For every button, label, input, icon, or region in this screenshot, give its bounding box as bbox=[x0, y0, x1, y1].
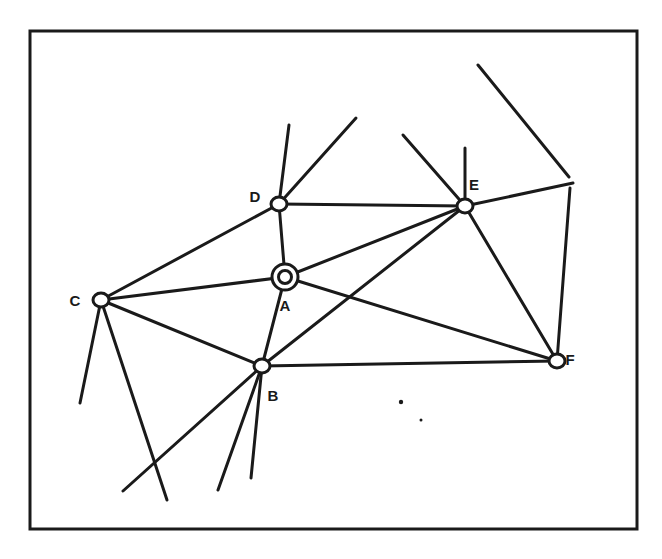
edge-d-c bbox=[101, 204, 279, 300]
node-label: A bbox=[280, 297, 291, 314]
node-circle-icon bbox=[271, 197, 287, 211]
ray-line bbox=[80, 300, 101, 403]
edges-layer bbox=[101, 204, 557, 366]
ray-line bbox=[403, 135, 465, 206]
node-c: C bbox=[70, 292, 109, 309]
node-label: F bbox=[565, 351, 574, 368]
node-label: E bbox=[469, 176, 479, 193]
edge-c-b bbox=[101, 300, 262, 366]
network-diagram: ABCDEF bbox=[0, 0, 662, 559]
ray-line bbox=[279, 125, 289, 204]
edge-b-f bbox=[262, 361, 557, 366]
edge-a-e bbox=[285, 206, 465, 277]
ray-line bbox=[279, 118, 356, 204]
node-label: D bbox=[250, 188, 261, 205]
node-circle-icon bbox=[549, 354, 565, 368]
ray-line bbox=[101, 300, 167, 500]
node-f: F bbox=[549, 351, 575, 368]
rays-layer bbox=[80, 65, 573, 500]
edge-c-a bbox=[101, 277, 285, 300]
node-inner-ring-icon bbox=[279, 271, 292, 284]
ray-line bbox=[478, 65, 569, 177]
node-circle-icon bbox=[457, 199, 473, 213]
ray-line bbox=[557, 188, 570, 361]
edge-d-e bbox=[279, 204, 465, 206]
node-e: E bbox=[457, 176, 479, 213]
speck-mark bbox=[399, 400, 403, 404]
node-circle-icon bbox=[254, 359, 270, 373]
ray-line bbox=[465, 183, 573, 206]
specks-layer bbox=[399, 400, 423, 422]
node-label: B bbox=[268, 387, 279, 404]
node-label: C bbox=[70, 292, 81, 309]
diagram-frame bbox=[30, 31, 637, 529]
speck-mark bbox=[420, 419, 423, 422]
node-circle-icon bbox=[93, 293, 109, 307]
